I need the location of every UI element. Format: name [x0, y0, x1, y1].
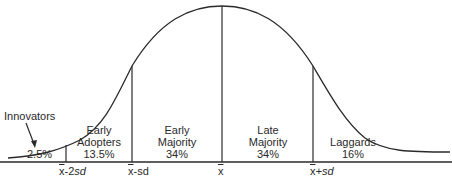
segment-late-majority: Late Majority 34%: [233, 124, 303, 160]
segment-label-line-1: Early: [142, 124, 212, 136]
segment-laggards: Laggards 16%: [318, 136, 388, 160]
innovators-label: Innovators: [4, 110, 55, 122]
segment-label-line-2: Majority: [233, 136, 303, 148]
segment-label-line-1: Laggards: [318, 136, 388, 148]
innovators-percent: 2.5%: [27, 148, 52, 160]
tick-mean-minus-sd: x-sd: [128, 165, 149, 177]
segment-label-line-1: Early: [64, 124, 134, 136]
segment-label-line-1: Late: [233, 124, 303, 136]
segment-early-majority: Early Majority 34%: [142, 124, 212, 160]
segment-percent: 34%: [233, 148, 303, 160]
segment-percent: 16%: [318, 148, 388, 160]
segment-label-line-2: Majority: [142, 136, 212, 148]
tick-mean-minus-2sd: x-2sd: [59, 165, 86, 177]
segment-percent: 13.5%: [64, 148, 134, 160]
segment-label-line-2: Adopters: [64, 136, 134, 148]
arrowhead-icon: [31, 140, 37, 148]
tick-mean: x: [218, 165, 224, 177]
segment-early-adopters: Early Adopters 13.5%: [64, 124, 134, 160]
segment-percent: 34%: [142, 148, 212, 160]
tick-mean-plus-sd: x+sd: [310, 165, 334, 177]
